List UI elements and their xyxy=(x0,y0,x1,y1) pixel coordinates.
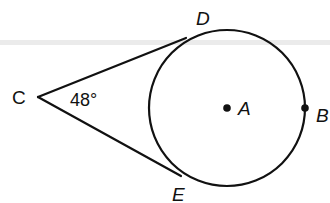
label-e: E xyxy=(172,184,185,203)
point-a xyxy=(223,104,231,112)
label-c: C xyxy=(12,87,26,108)
segment-ce xyxy=(38,97,181,176)
point-b xyxy=(301,104,309,112)
diagram-canvas: C 48° D E A B xyxy=(0,0,330,203)
label-a: A xyxy=(237,98,251,119)
label-d: D xyxy=(196,8,210,29)
segment-cd xyxy=(38,38,186,97)
label-angle: 48° xyxy=(70,90,97,110)
tangent-circle-diagram: C 48° D E A B xyxy=(0,0,330,203)
label-b: B xyxy=(316,105,329,126)
